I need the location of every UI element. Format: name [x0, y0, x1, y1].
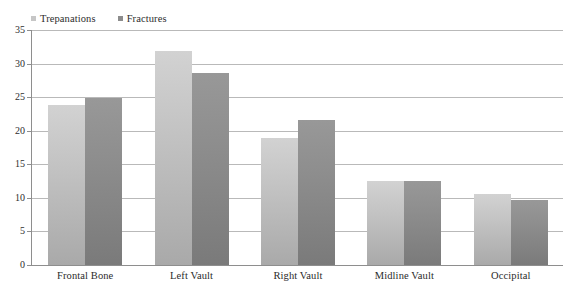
legend-swatch-fractures — [118, 16, 123, 21]
x-axis-label: Occipital — [458, 269, 564, 282]
bar-occipital-trepanations — [474, 194, 511, 266]
bar-midline-vault-trepanations — [367, 181, 404, 266]
bar-right-vault-trepanations — [261, 138, 298, 266]
bar-midline-vault-fractures — [404, 181, 441, 266]
x-axis-labels: Frontal BoneLeft VaultRight VaultMidline… — [32, 267, 563, 291]
y-tick-label: 20 — [1, 126, 25, 136]
legend-item-fractures[interactable]: Fractures — [118, 13, 167, 24]
chart-legend: Trepanations Fractures — [31, 11, 167, 25]
y-tick-label: 10 — [1, 193, 25, 203]
legend-swatch-trepanations — [31, 16, 36, 21]
bar-chart: Trepanations Fractures 05101520253035 Fr… — [0, 0, 573, 294]
bar-occipital-fractures — [511, 200, 548, 266]
y-tick-label: 15 — [1, 159, 25, 169]
x-axis-label: Left Vault — [138, 269, 244, 282]
x-axis-line — [31, 265, 563, 266]
x-axis-label: Right Vault — [245, 269, 351, 282]
y-tick-label: 35 — [1, 25, 25, 35]
bar-frontal-bone-fractures — [85, 98, 122, 266]
y-tick-label: 5 — [1, 226, 25, 236]
y-tick-label: 25 — [1, 92, 25, 102]
bar-left-vault-fractures — [192, 73, 229, 266]
legend-item-trepanations[interactable]: Trepanations — [31, 13, 96, 24]
y-axis-line — [31, 30, 32, 266]
bars-container — [32, 30, 563, 266]
x-axis-label: Frontal Bone — [32, 269, 138, 282]
bar-left-vault-trepanations — [155, 51, 192, 266]
y-tick-label: 30 — [1, 59, 25, 69]
legend-label-fractures: Fractures — [127, 13, 167, 24]
legend-label-trepanations: Trepanations — [40, 13, 96, 24]
x-axis-label: Midline Vault — [351, 269, 457, 282]
bar-right-vault-fractures — [298, 120, 335, 266]
bar-frontal-bone-trepanations — [48, 105, 85, 266]
y-tick-label: 0 — [1, 260, 25, 270]
